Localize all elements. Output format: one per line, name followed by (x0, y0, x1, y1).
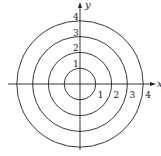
y-radius-label-3: 3 (73, 28, 79, 38)
y-radius-label-1: 1 (73, 59, 79, 69)
x-axis-arrow-icon (150, 82, 156, 86)
y-radius-label-4: 4 (73, 12, 79, 22)
x-axis-label: x (157, 78, 161, 89)
x-radius-label-3: 3 (129, 90, 135, 100)
y-radius-label-2: 2 (73, 43, 79, 53)
polar-circles-diagram: x y 11223344 (0, 0, 161, 156)
y-axis-label: y (84, 0, 91, 10)
radius-labels: 11223344 (73, 12, 151, 100)
y-axis-arrow-icon (78, 2, 82, 8)
x-radius-label-2: 2 (114, 90, 120, 100)
x-radius-label-4: 4 (145, 90, 151, 100)
x-radius-label-1: 1 (98, 90, 104, 100)
